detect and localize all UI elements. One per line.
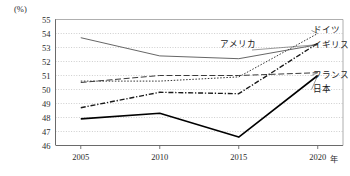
series-labels: ドイツイギリスアメリカフランス日本 bbox=[220, 25, 349, 94]
y-tick-label: 49 bbox=[42, 99, 51, 109]
y-tick-label: 51 bbox=[42, 71, 51, 81]
line-chart: (%) 46474849505152535455 200520102015202… bbox=[0, 0, 350, 176]
x-tick-label: 2020 bbox=[309, 152, 326, 162]
y-tick-label: 52 bbox=[42, 57, 51, 67]
series-label: アメリカ bbox=[220, 39, 256, 49]
series-label: イギリス bbox=[313, 40, 349, 50]
y-axis-tick-labels: 46474849505152535455 bbox=[42, 15, 51, 151]
chart-canvas: (%) 46474849505152535455 200520102015202… bbox=[0, 0, 350, 176]
x-tick-label: 2010 bbox=[151, 152, 168, 162]
y-tick-label: 55 bbox=[42, 15, 51, 25]
y-tick-label: 47 bbox=[42, 127, 51, 137]
x-tick-label: 2005 bbox=[72, 152, 89, 162]
y-tick-label: 54 bbox=[42, 29, 51, 39]
series-label: フランス bbox=[313, 70, 349, 80]
y-tick-label: 53 bbox=[42, 43, 51, 53]
series-label: ドイツ bbox=[313, 25, 340, 35]
x-axis-unit-label: 年 bbox=[330, 154, 338, 164]
series-label: 日本 bbox=[313, 83, 331, 94]
y-tick-label: 48 bbox=[42, 113, 51, 123]
y-tick-label: 50 bbox=[42, 85, 51, 95]
y-axis-unit-label: (%) bbox=[14, 4, 27, 14]
x-axis-tick-labels: 2005201020152020 bbox=[72, 152, 326, 162]
y-tick-label: 46 bbox=[42, 141, 51, 151]
x-axis-ticks bbox=[81, 146, 318, 150]
x-tick-label: 2015 bbox=[230, 152, 247, 162]
series-lines bbox=[81, 34, 318, 138]
series-line bbox=[81, 38, 318, 59]
series-line bbox=[81, 76, 318, 138]
